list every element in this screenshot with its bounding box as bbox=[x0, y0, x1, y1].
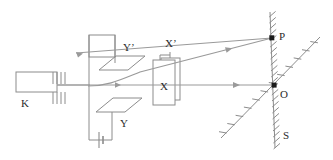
y-upper-plate bbox=[99, 56, 145, 70]
label-x-front-plate: X bbox=[160, 80, 168, 92]
label-cathode: K bbox=[21, 97, 29, 109]
diagonal-plane-line bbox=[221, 37, 320, 138]
spot-O-marker bbox=[272, 83, 277, 88]
label-point-O: O bbox=[280, 88, 288, 100]
undeflected-beam-arrow-2 bbox=[233, 82, 240, 88]
crt-deflection-figure: K Y’ Y X X’ P O S bbox=[0, 0, 333, 160]
cathode-body bbox=[16, 72, 57, 92]
spot-P-marker bbox=[269, 35, 274, 40]
y-upper-terminal-box bbox=[89, 35, 115, 57]
y-lower-plate bbox=[96, 98, 142, 112]
x-plate-assembly bbox=[153, 52, 180, 105]
undeflected-beam-arrow-1 bbox=[115, 82, 121, 88]
label-y-lower-plate: Y bbox=[120, 117, 128, 129]
label-point-P: P bbox=[279, 30, 285, 42]
label-y-upper-plate: Y’ bbox=[123, 41, 135, 53]
label-screen-S: S bbox=[283, 129, 289, 141]
grid-electrodes bbox=[53, 72, 65, 104]
figure-canvas: K Y’ Y X X’ P O S bbox=[0, 0, 333, 160]
label-x-back-plate: X’ bbox=[165, 37, 177, 49]
